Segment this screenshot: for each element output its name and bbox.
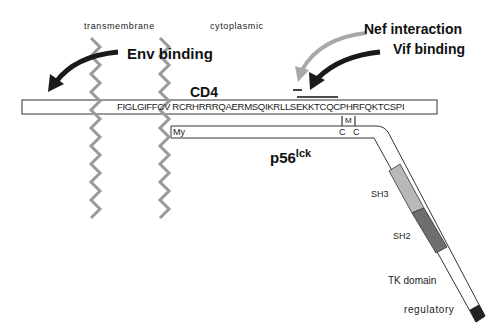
m-label: M xyxy=(345,116,352,125)
p56lck-body xyxy=(171,126,485,322)
p56-text: p56 xyxy=(270,149,296,166)
myristoyl-label: My xyxy=(173,127,185,137)
cysteine-label-1: C xyxy=(339,127,346,137)
sh3-label: SH3 xyxy=(371,189,389,199)
env-binding-arrow-icon xyxy=(56,52,118,82)
env-binding-label: Env binding xyxy=(127,45,213,62)
p56lck-label: p56lck xyxy=(270,147,311,166)
transmembrane-helix-right xyxy=(160,38,169,218)
cytoplasmic-label: cytoplasmic xyxy=(210,21,264,31)
nef-arrow-head xyxy=(295,66,309,82)
transmembrane-label: transmembrane xyxy=(84,21,155,31)
lck-superscript: lck xyxy=(296,147,311,159)
sh2-label: SH2 xyxy=(393,231,411,241)
tk-domain-label: TK domain xyxy=(388,275,436,286)
nef-interaction-label: Nef interaction xyxy=(364,21,462,37)
cd4-label: CD4 xyxy=(190,84,218,100)
cd4-lck-diagram: transmembrane cytoplasmic Env binding Ne… xyxy=(0,0,498,329)
cd4-sequence: FIGLGIFFCV RCRHRRRQAERMSQIKRLLSEKKTCQCPH… xyxy=(117,101,404,112)
regulatory-label: regulatory xyxy=(404,304,454,315)
transmembrane-helix-left xyxy=(91,38,100,218)
vif-binding-label: Vif binding xyxy=(393,41,465,57)
vif-binding-arrow-icon xyxy=(318,52,380,78)
cysteine-label-2: C xyxy=(353,127,360,137)
